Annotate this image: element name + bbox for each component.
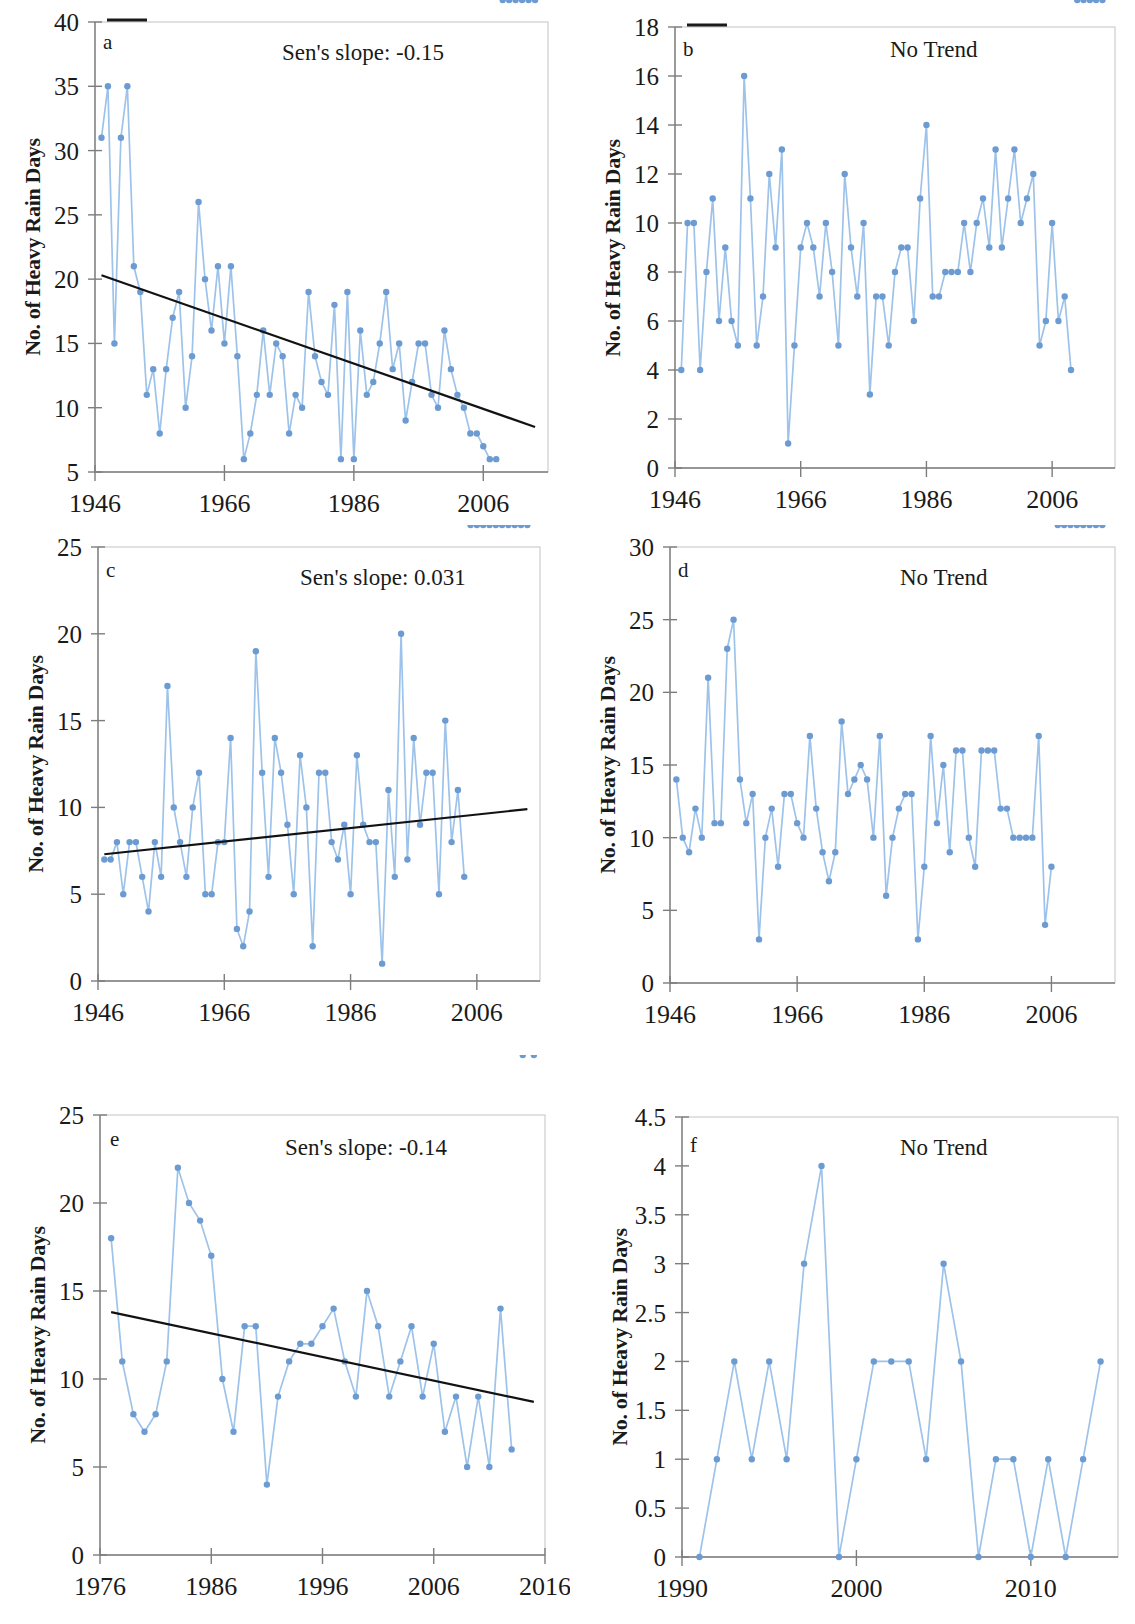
data-point xyxy=(408,1323,414,1329)
data-point xyxy=(189,353,195,359)
data-point xyxy=(1048,864,1054,870)
y-tick-label: 0.5 xyxy=(635,1495,666,1522)
plot-frame xyxy=(670,547,1115,983)
data-point xyxy=(1061,525,1067,528)
data-point xyxy=(196,769,202,775)
data-point xyxy=(144,392,150,398)
data-point xyxy=(202,891,208,897)
data-point xyxy=(686,849,692,855)
data-point xyxy=(870,834,876,840)
data-point xyxy=(1067,525,1073,528)
data-point xyxy=(197,1217,203,1223)
y-tick-label: 10 xyxy=(59,1366,84,1393)
data-point xyxy=(328,839,334,845)
data-point xyxy=(272,735,278,741)
panel-letter-a: a xyxy=(103,30,112,55)
y-tick-label: 20 xyxy=(57,621,82,648)
x-tick-label: 1946 xyxy=(72,998,124,1027)
data-point xyxy=(864,776,870,782)
data-point xyxy=(532,0,538,3)
data-point xyxy=(330,1305,336,1311)
data-point xyxy=(531,1055,537,1058)
data-point xyxy=(705,675,711,681)
data-point xyxy=(823,220,829,226)
data-point xyxy=(364,1288,370,1294)
data-point xyxy=(448,366,454,372)
data-point xyxy=(1024,195,1030,201)
y-tick-label: 1.5 xyxy=(635,1397,666,1424)
data-point xyxy=(966,834,972,840)
data-point xyxy=(766,1358,772,1364)
y-axis-label-b: No. of Heavy Rain Days xyxy=(600,139,626,357)
data-point xyxy=(697,367,703,373)
data-point xyxy=(955,269,961,275)
data-point xyxy=(1093,0,1099,3)
data-point xyxy=(877,733,883,739)
data-point xyxy=(464,1464,470,1470)
data-point xyxy=(176,289,182,295)
data-point xyxy=(500,0,506,3)
x-tick-label: 1946 xyxy=(649,485,701,514)
data-point xyxy=(183,874,189,880)
data-point xyxy=(673,776,679,782)
data-point xyxy=(150,366,156,372)
data-point xyxy=(246,908,252,914)
data-point xyxy=(1005,195,1011,201)
data-series-line xyxy=(681,76,1071,444)
data-point xyxy=(152,1411,158,1417)
data-point xyxy=(760,293,766,299)
data-point xyxy=(1062,1554,1068,1560)
y-tick-label: 35 xyxy=(54,73,79,100)
data-point xyxy=(512,0,518,3)
data-point xyxy=(896,805,902,811)
data-point xyxy=(108,1235,114,1241)
data-point xyxy=(800,834,806,840)
data-point xyxy=(309,943,315,949)
data-point xyxy=(974,220,980,226)
data-point xyxy=(804,220,810,226)
x-tick-label: 2006 xyxy=(1026,485,1078,514)
data-point xyxy=(164,1358,170,1364)
data-point xyxy=(1093,525,1099,528)
data-point xyxy=(442,717,448,723)
data-point xyxy=(423,769,429,775)
data-point xyxy=(923,1456,929,1462)
data-point xyxy=(98,135,104,141)
data-point xyxy=(118,135,124,141)
data-point xyxy=(397,1358,403,1364)
data-point xyxy=(305,289,311,295)
data-point xyxy=(208,1253,214,1259)
panel-annotation-b: No Trend xyxy=(890,37,978,63)
data-series-line xyxy=(101,86,496,459)
data-series-line xyxy=(104,634,464,964)
data-point xyxy=(917,195,923,201)
y-axis-label-f: No. of Heavy Rain Days xyxy=(607,1228,633,1446)
y-tick-label: 3 xyxy=(654,1251,667,1278)
data-point xyxy=(215,263,221,269)
data-point xyxy=(889,834,895,840)
data-point xyxy=(195,199,201,205)
data-point xyxy=(948,269,954,275)
data-point xyxy=(747,195,753,201)
data-point xyxy=(411,735,417,741)
data-point xyxy=(182,405,188,411)
y-tick-label: 25 xyxy=(54,202,79,229)
data-point xyxy=(474,430,480,436)
y-tick-label: 12 xyxy=(634,161,659,188)
panel-annotation-a: Sen's slope: -0.15 xyxy=(282,40,444,66)
x-tick-label: 1966 xyxy=(771,1000,823,1029)
data-point xyxy=(525,0,531,3)
data-point xyxy=(316,769,322,775)
data-point xyxy=(164,683,170,689)
data-point xyxy=(680,834,686,840)
data-point xyxy=(961,220,967,226)
data-point xyxy=(415,340,421,346)
data-point xyxy=(253,648,259,654)
chart-panel-b: 0246810121416181946196619862006 No. of H… xyxy=(570,0,1135,525)
x-tick-label: 1986 xyxy=(185,1572,237,1601)
panel-letter-d: d xyxy=(678,558,689,583)
data-point xyxy=(838,718,844,724)
data-point xyxy=(848,244,854,250)
data-point xyxy=(375,1323,381,1329)
y-tick-label: 20 xyxy=(629,679,654,706)
